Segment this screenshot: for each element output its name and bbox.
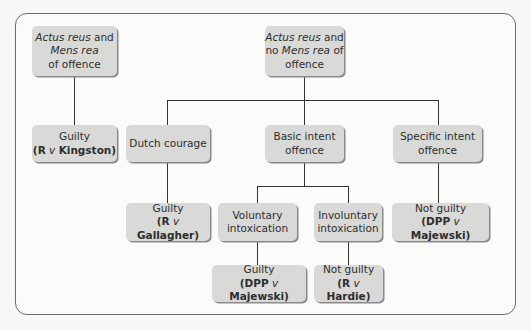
node-text: of — [330, 44, 343, 56]
case-party: DPP — [245, 277, 269, 289]
connector — [167, 100, 439, 101]
node-text: Basic intent — [273, 130, 335, 142]
connector — [304, 162, 305, 186]
case-party: DPP — [426, 215, 450, 227]
paren: ) — [284, 290, 289, 302]
connector — [348, 186, 349, 203]
node-text: Specific intent — [400, 130, 475, 142]
node-actus-reus-and-mens-rea: Actus reus and Mens rea of offence — [32, 26, 117, 76]
verdict-text: Guilty — [59, 130, 90, 142]
node-text: no — [265, 44, 281, 56]
verdict-text: Guilty — [153, 202, 184, 214]
node-guilty-kingston: Guilty (R v Kingston) — [32, 125, 117, 162]
node-voluntary-intoxication: Voluntaryintoxication — [218, 203, 297, 241]
node-dutch-courage: Dutch courage — [126, 125, 210, 162]
connector — [348, 241, 349, 265]
node-text: intoxication — [227, 222, 288, 234]
node-text: of offence — [48, 58, 100, 70]
node-not-guilty-hardie: Not guilty (R v Hardie) — [314, 265, 383, 302]
node-specific-intent: Specific intentoffence — [393, 125, 482, 162]
verdict-text: Not guilty — [415, 202, 466, 214]
node-text: Dutch courage — [129, 137, 206, 151]
paren: ) — [465, 229, 470, 241]
node-text: offence — [418, 144, 457, 156]
node-guilty-majewski: Guilty (DPP v Majewski) — [212, 265, 306, 302]
connector — [438, 162, 439, 203]
connector — [257, 186, 258, 203]
node-text: Actus reus — [265, 31, 320, 43]
node-not-guilty-majewski: Not guilty (DPP v Majewski) — [392, 203, 489, 241]
case-party: R — [38, 144, 46, 156]
connector — [167, 100, 168, 125]
node-text: Voluntary — [232, 209, 282, 221]
case-versus: v — [46, 144, 59, 156]
case-party: R — [162, 215, 170, 227]
node-text: and — [91, 31, 114, 43]
node-actus-reus-no-mens-rea: Actus reus and no Mens rea of offence — [265, 26, 344, 76]
case-party: R — [342, 277, 350, 289]
case-party: Hardie — [326, 290, 365, 302]
case-versus: v — [269, 277, 279, 289]
node-basic-intent: Basic intentoffence — [265, 125, 344, 162]
node-text: Mens rea — [50, 44, 98, 56]
case-versus: v — [350, 277, 360, 289]
node-text: Actus reus — [35, 31, 90, 43]
connector — [74, 76, 75, 125]
paren: ) — [194, 229, 199, 241]
paren: ) — [111, 144, 116, 156]
verdict-text: Guilty — [244, 263, 275, 275]
node-guilty-gallagher: Guilty (R v Gallagher) — [126, 203, 210, 241]
connector — [257, 241, 258, 265]
case-party: Majewski — [411, 229, 466, 241]
connector — [167, 162, 168, 203]
node-text: intoxication — [317, 222, 378, 234]
node-text: and — [321, 31, 344, 43]
case-versus: v — [450, 215, 460, 227]
node-text: Mens rea — [282, 44, 330, 56]
case-party: Gallagher — [137, 229, 194, 241]
case-versus: v — [170, 215, 180, 227]
connector — [257, 186, 349, 187]
node-text: offence — [285, 58, 324, 70]
case-party: Majewski — [229, 290, 284, 302]
node-involuntary-intoxication: Involuntaryintoxication — [314, 203, 382, 241]
connector — [438, 100, 439, 125]
verdict-text: Not guilty — [323, 263, 374, 275]
node-text: offence — [285, 144, 324, 156]
paren: ) — [366, 290, 371, 302]
case-party: Kingston — [59, 144, 112, 156]
node-text: Involuntary — [318, 209, 378, 221]
